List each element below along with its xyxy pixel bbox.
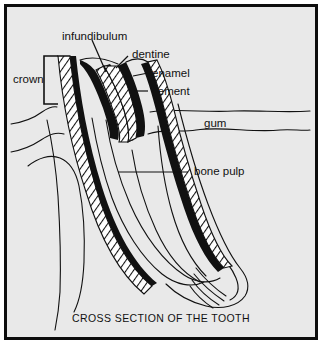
label-cement: cement — [152, 85, 191, 97]
apex-fibres — [190, 268, 226, 308]
label-enamel: enamel — [152, 67, 190, 79]
figure-page: infundibulum dentine enamel cement crown… — [0, 0, 322, 344]
figure-caption: CROSS SECTION OF THE TOOTH — [72, 312, 250, 324]
root-pulp-contours — [92, 118, 220, 285]
tooth-cross-section-illustration: infundibulum dentine enamel cement crown… — [0, 0, 322, 344]
label-infundibulum: infundibulum — [62, 30, 127, 42]
label-dentine: dentine — [132, 48, 170, 60]
leader-infundibulum — [92, 40, 106, 72]
label-crown: crown — [13, 73, 44, 85]
label-gum: gum — [204, 117, 226, 129]
label-bone-pulp: bone pulp — [194, 165, 245, 177]
crown-bracket — [44, 56, 58, 104]
